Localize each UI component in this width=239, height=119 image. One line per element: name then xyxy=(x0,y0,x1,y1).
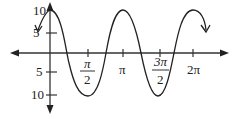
y-axis-down-arrow-icon xyxy=(47,105,54,114)
x-label-pi-half-den: 2 xyxy=(84,72,91,87)
graph: 10 5 5 10 π 2 π 3π 2 2π xyxy=(0,0,239,119)
x-label-two-pi: 2π xyxy=(187,62,201,77)
x-axis-right-arrow-icon xyxy=(220,50,229,57)
y-label-5-bottom: 5 xyxy=(36,64,43,79)
x-label-pi-half-num: π xyxy=(84,56,91,71)
y-label-5-top: 5 xyxy=(33,25,40,40)
y-label-10-top: 10 xyxy=(33,3,46,18)
x-label-three-pi-half-num: 3π xyxy=(153,54,168,69)
x-axis-left-arrow-icon xyxy=(10,50,19,57)
x-label-pi: π xyxy=(119,62,126,77)
y-label-10-bottom: 10 xyxy=(31,87,44,102)
x-label-three-pi-half-den: 2 xyxy=(157,72,164,87)
